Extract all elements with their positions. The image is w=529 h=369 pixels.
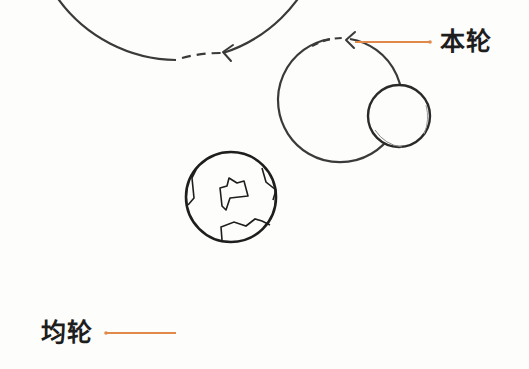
epicycle-leader-dot [428, 40, 432, 44]
deferent-arrow-icon [223, 45, 233, 61]
epicycle-label: 本轮 [440, 29, 492, 54]
planet [368, 85, 430, 147]
deferent-label: 均轮 [41, 320, 93, 345]
earth [186, 152, 276, 242]
deferent-leader-dot [104, 331, 108, 335]
deferent-circle [30, 0, 326, 60]
deferent-dashed-segment [182, 53, 222, 58]
